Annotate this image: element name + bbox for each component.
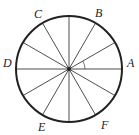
- label-c: C: [34, 7, 43, 21]
- center-point: [67, 67, 71, 71]
- label-d: D: [2, 56, 12, 70]
- circle-diagram: A B C D E F: [0, 0, 139, 135]
- label-b: B: [95, 6, 103, 20]
- label-a: A: [126, 56, 135, 70]
- angle-marker: [83, 61, 85, 69]
- label-f: F: [100, 118, 109, 132]
- diagram-stage: A B C D E F: [0, 0, 139, 135]
- label-e: E: [37, 120, 46, 134]
